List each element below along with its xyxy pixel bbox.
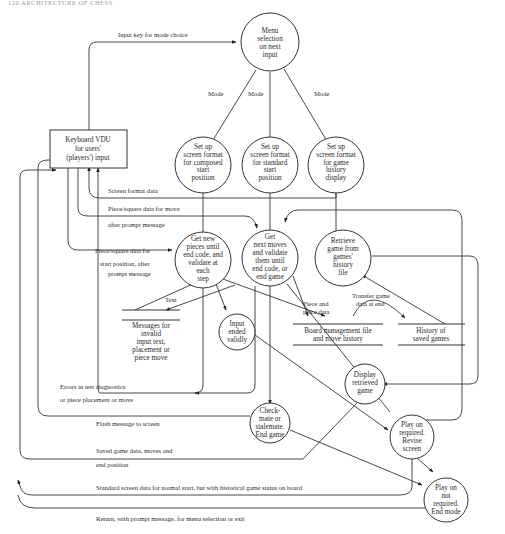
svg-text:validly: validly — [227, 336, 247, 344]
svg-text:piece move: piece move — [135, 354, 168, 362]
svg-text:position: position — [191, 174, 215, 182]
process-get-new-pieces: Get new pieces until end code, and valid… — [175, 232, 231, 288]
label-transfer-2: data at end — [356, 300, 385, 307]
label-mode-2: Mode — [248, 90, 263, 97]
flow-return — [18, 495, 427, 508]
svg-text:input: input — [263, 51, 278, 59]
svg-text:for users': for users' — [75, 145, 101, 153]
svg-text:each: each — [196, 267, 210, 275]
label-screen-format: Screen format data — [108, 187, 158, 194]
data-flow-diagram: 120 ARCHITECTURE OF CHESS Input key for … — [0, 0, 505, 534]
svg-text:Get new: Get new — [191, 235, 216, 243]
label-transfer-1: Transfer game — [352, 292, 390, 299]
flow-errors-to-keyboard — [98, 168, 100, 393]
process-play-on-required: Play on required. Revise screen — [390, 415, 434, 459]
svg-text:History of: History of — [416, 327, 446, 335]
label-standard-screen: Standard screen data for normal start, b… — [96, 484, 303, 491]
label-piece-move-2: after prompt message — [108, 221, 165, 228]
svg-text:input text,: input text, — [136, 338, 165, 346]
svg-text:invalid: invalid — [141, 330, 161, 338]
svg-text:validate at: validate at — [188, 259, 218, 267]
svg-text:Set up: Set up — [327, 143, 346, 151]
process-retrieve-game: Retrieve game from games' history file — [315, 230, 371, 286]
svg-text:and validate: and validate — [253, 249, 288, 257]
svg-text:Keyboard VDU: Keyboard VDU — [65, 136, 111, 144]
svg-text:position: position — [258, 174, 282, 182]
svg-text:End game: End game — [256, 431, 285, 439]
svg-text:step: step — [197, 275, 209, 283]
svg-text:End mode: End mode — [431, 508, 460, 516]
label-piece-start-3: prompt message — [108, 270, 151, 277]
svg-text:Revise: Revise — [402, 437, 422, 445]
store-history-saved: History of saved games — [398, 324, 465, 345]
flow-pieces-to-input-ended — [216, 284, 226, 310]
svg-text:required.: required. — [433, 500, 459, 508]
label-saved-1: Saved game data, moves and — [96, 447, 173, 454]
svg-text:Play on: Play on — [401, 421, 423, 429]
svg-text:Set up: Set up — [194, 143, 213, 151]
label-piece-move-1: Piece/square data for move — [108, 205, 180, 212]
svg-text:Display: Display — [354, 371, 377, 379]
svg-text:screen format: screen format — [250, 151, 289, 159]
process-setup-standard: Set up screen format for standard start … — [242, 137, 298, 193]
svg-text:history: history — [326, 166, 346, 174]
svg-text:not: not — [441, 492, 450, 500]
process-setup-composed: Set up screen format for composed start … — [175, 137, 231, 193]
svg-text:retrieved: retrieved — [352, 379, 378, 387]
label-errors-1: Errors in test diagnostics — [60, 383, 126, 390]
svg-text:Menu: Menu — [262, 27, 279, 35]
svg-text:Messages for: Messages for — [132, 322, 171, 330]
svg-text:screen: screen — [403, 445, 422, 453]
svg-text:and move history: and move history — [313, 335, 363, 343]
label-input-key: Input key for mode choice — [118, 31, 188, 38]
svg-text:history: history — [333, 261, 353, 269]
svg-text:games': games' — [333, 253, 353, 261]
page-header: 120 ARCHITECTURE OF CHESS — [8, 0, 113, 6]
label-return: Return, with prompt message, for menu se… — [96, 515, 245, 522]
svg-text:required.: required. — [399, 429, 425, 437]
external-keyboard-vdu: Keyboard VDU for users' (players') input — [50, 130, 127, 168]
process-get-next-moves: Get next moves and validate them until e… — [242, 230, 298, 286]
process-menu-selection: Menu selection on next input — [241, 13, 299, 71]
process-play-on-not-required: Play on not required. End mode — [424, 478, 468, 522]
svg-text:end game: end game — [256, 273, 284, 281]
svg-text:game from: game from — [327, 245, 359, 253]
svg-text:end code, and: end code, and — [183, 251, 223, 259]
svg-text:Input: Input — [229, 320, 244, 328]
label-piece-place-1: Piece and — [303, 300, 329, 307]
svg-text:them until: them until — [255, 257, 284, 265]
svg-text:screen format: screen format — [183, 151, 222, 159]
svg-text:display: display — [326, 174, 347, 182]
svg-text:screen format: screen format — [316, 151, 355, 159]
label-flash: Flash message to screen — [96, 420, 160, 427]
svg-text:mate or: mate or — [259, 415, 281, 423]
svg-text:(players') input: (players') input — [66, 154, 109, 162]
label-piece-start-1: Piece/square data for — [95, 247, 151, 254]
svg-text:on next: on next — [259, 43, 280, 51]
process-setup-history: Set up screen format for game history di… — [308, 137, 364, 193]
svg-text:stalemate.: stalemate. — [256, 423, 285, 431]
svg-text:ended: ended — [228, 328, 246, 336]
label-errors-2: or piece placement or move — [60, 396, 133, 403]
svg-text:start: start — [197, 166, 209, 174]
svg-text:placement or: placement or — [132, 346, 170, 354]
label-text: Text — [165, 296, 177, 303]
label-mode-3: Mode — [314, 90, 329, 97]
svg-text:game: game — [357, 387, 373, 395]
svg-text:Check-: Check- — [260, 407, 281, 415]
svg-text:file: file — [338, 269, 348, 277]
store-messages: Messages for invalid input text, placeme… — [122, 310, 180, 362]
svg-text:saved games: saved games — [413, 335, 450, 343]
svg-text:Set up: Set up — [261, 143, 280, 151]
store-board-management: Board management file and move history — [293, 324, 383, 345]
process-display-retrieved: Display retrieved game — [345, 364, 385, 404]
label-saved-2: end position — [96, 461, 129, 468]
label-piece-start-2: start position, after — [100, 260, 150, 267]
svg-text:Play on: Play on — [435, 484, 457, 492]
label-mode-1: Mode — [208, 90, 223, 97]
svg-text:next moves: next moves — [254, 241, 287, 249]
svg-text:start: start — [264, 166, 276, 174]
svg-text:end code, or: end code, or — [252, 265, 288, 273]
svg-text:Retrieve: Retrieve — [331, 237, 355, 245]
svg-text:Board management file: Board management file — [304, 327, 371, 335]
